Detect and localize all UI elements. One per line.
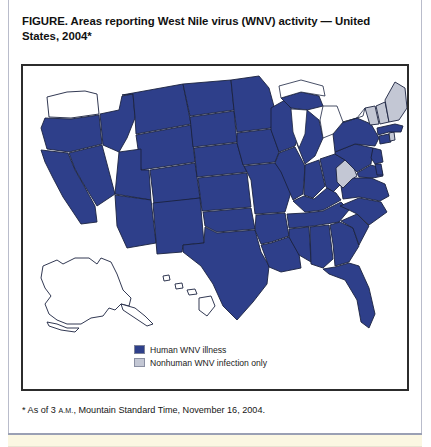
state-AL	[310, 225, 333, 268]
state-RI	[389, 132, 395, 141]
state-OR	[41, 115, 102, 152]
page-footer-band	[8, 435, 422, 447]
state-ND	[183, 80, 234, 116]
alaska-panhandle	[121, 304, 153, 326]
state-FL	[323, 263, 375, 328]
figure-title: FIGURE. Areas reporting West Nile virus …	[22, 14, 400, 43]
state-NJ	[371, 148, 383, 164]
footnote-marker: *	[22, 405, 26, 415]
legend-label-human: Human WNV illness	[150, 345, 226, 355]
legend-swatch-human-icon	[134, 345, 145, 354]
figure-footnote: * As of 3 A.M., Mountain Standard Time, …	[22, 404, 412, 417]
legend-item-human: Human WNV illness	[134, 344, 354, 355]
hawaii-oahu	[175, 283, 183, 289]
figure-frame: .st { stroke: #1b2340; stroke-width: 0.9…	[21, 64, 409, 391]
state-ME	[385, 82, 407, 122]
hawaii-kauai	[163, 275, 170, 281]
state-CO	[150, 163, 200, 204]
legend-item-nonhuman: Nonhuman WNV infection only	[134, 357, 354, 368]
inset-alaska	[41, 258, 153, 332]
us-choropleth-map: .st { stroke: #1b2340; stroke-width: 0.9…	[23, 66, 407, 389]
page-rule-left	[8, 0, 9, 434]
state-AK	[41, 258, 131, 324]
state-ID	[100, 94, 135, 152]
inset-hawaii	[163, 275, 215, 316]
hawaii-maui	[187, 289, 197, 295]
footnote-suffix: , Mountain Standard Time, November 16, 2…	[73, 405, 265, 415]
hawaii-bigisland	[199, 296, 215, 316]
footnote-prefix: As of 3	[28, 405, 59, 415]
state-AZ	[115, 195, 156, 248]
state-OK	[203, 208, 255, 232]
state-KS	[198, 173, 251, 211]
footnote-smallcaps: A.M.	[58, 407, 73, 415]
state-WA	[47, 91, 99, 118]
state-MN	[231, 76, 275, 132]
legend-swatch-nonhuman-icon	[134, 358, 145, 367]
us-map-svg: .st { stroke: #1b2340; stroke-width: 0.9…	[23, 66, 407, 389]
map-legend: Human WNV illness Nonhuman WNV infection…	[134, 344, 354, 370]
page-rule-right	[421, 0, 422, 434]
legend-label-nonhuman: Nonhuman WNV infection only	[150, 358, 267, 368]
state-SD	[190, 111, 237, 147]
